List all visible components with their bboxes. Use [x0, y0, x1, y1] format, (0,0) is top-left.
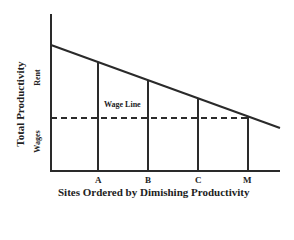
site-label-m: M: [243, 175, 252, 185]
wages-label: Wages: [33, 127, 42, 157]
rent-label: Rent: [33, 66, 42, 90]
site-label-b: B: [145, 175, 151, 185]
site-label-c: C: [195, 175, 202, 185]
wage-line-label: Wage Line: [104, 100, 141, 109]
y-axis-label: Total Productivity: [14, 54, 26, 154]
x-axis-label: Sites Ordered by Dimishing Productivity: [58, 186, 250, 198]
productivity-line: [51, 45, 280, 128]
site-label-a: A: [95, 175, 102, 185]
